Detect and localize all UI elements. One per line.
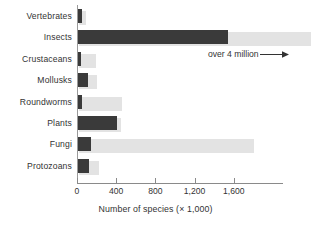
bar [77,30,228,44]
annotation-label: over 4 million [208,49,259,59]
category-axis-labels: VertebratesInsectsCrustaceansMollusksRou… [0,5,72,180]
category-label: Roundworms [0,97,72,107]
category-label: Crustaceans [0,54,72,64]
bar-shadow [79,54,96,68]
bar [77,73,88,87]
x-tick-label: 400 [96,186,136,196]
x-tick-label: 800 [135,186,175,196]
x-tick [116,178,117,183]
category-label: Mollusks [0,75,72,85]
over-4-million-annotation: over 4 million [208,48,290,60]
species-bar-chart: VertebratesInsectsCrustaceansMollusksRou… [0,0,311,228]
category-label: Insects [0,32,72,42]
category-label: Plants [0,118,72,128]
category-label: Vertebrates [0,11,72,21]
category-label: Fungi [0,139,72,149]
x-tick [155,178,156,183]
x-tick [234,178,235,183]
x-tick-label: 0 [57,186,97,196]
x-tick-label: 1,200 [175,186,215,196]
bar [77,159,89,173]
x-axis-title: Number of species (× 1,000) [0,204,311,215]
x-tick [77,178,78,183]
bar [77,137,91,151]
right-arrow-icon [260,50,290,59]
plot-area [77,5,311,180]
bar-shadow [79,139,254,153]
category-label: Protozoans [0,161,72,171]
x-tick [195,178,196,183]
bar [77,116,117,130]
bar-shadow [79,97,122,111]
x-axis-line [77,183,283,184]
y-axis-line [77,5,78,183]
x-tick-label: 1,600 [214,186,254,196]
